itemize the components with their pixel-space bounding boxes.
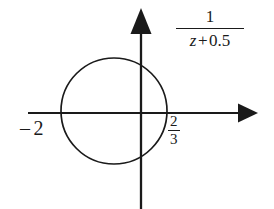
fraction-numerator: 2	[168, 114, 180, 129]
tick-value: 2	[34, 117, 45, 139]
roc-circle	[61, 58, 167, 164]
transfer-function-label: 1 z + 0.5	[176, 8, 244, 49]
fraction-denominator: 3	[168, 132, 180, 147]
real-axis-arrowhead-icon	[238, 104, 258, 123]
figure-canvas: –2 2 3 1 z + 0.5	[0, 0, 274, 209]
transfer-function-numerator: 1	[176, 8, 244, 27]
x-axis-tick-label-minus-two: –2	[20, 118, 44, 138]
x-axis-tick-label-two-thirds: 2 3	[168, 114, 180, 147]
transfer-function-denominator: z + 0.5	[176, 32, 244, 49]
denominator-operator: +	[198, 31, 208, 50]
fraction-two-thirds: 2 3	[168, 114, 180, 147]
imaginary-axis-arrowhead-icon	[131, 8, 152, 34]
minus-sign: –	[20, 117, 31, 139]
denominator-variable: z	[190, 31, 197, 50]
transfer-function-fraction-bar	[176, 28, 244, 29]
denominator-constant: 0.5	[209, 31, 230, 50]
